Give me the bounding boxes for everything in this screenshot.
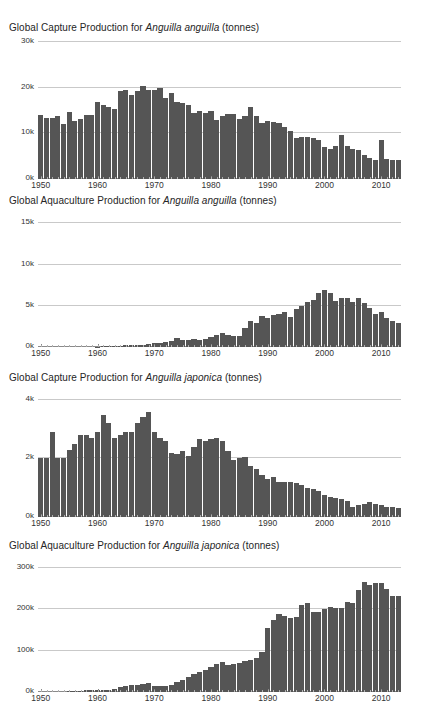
bar (135, 423, 140, 517)
bar (78, 435, 83, 517)
x-axis-minor-tick (268, 177, 269, 179)
bar (140, 86, 145, 179)
bar (208, 439, 213, 517)
bar (311, 300, 316, 347)
x-axis-minor-tick (183, 690, 184, 692)
bar (328, 149, 333, 179)
bar (180, 451, 185, 517)
bar (72, 444, 77, 517)
bar (384, 318, 389, 347)
bar (214, 120, 219, 179)
x-axis-minor-tick (273, 515, 274, 517)
x-axis-minor-tick (381, 345, 382, 347)
x-axis-minor-tick (307, 177, 308, 179)
bar (254, 116, 259, 179)
y-axis-tick-label: 20k (21, 83, 34, 91)
x-axis-minor-tick (347, 690, 348, 692)
x-axis-minor-tick (194, 177, 195, 179)
x-axis-tick-label: 1970 (145, 180, 164, 190)
bar (259, 475, 264, 517)
x-axis-minor-tick (126, 177, 127, 179)
x-axis-minor-tick (115, 177, 116, 179)
x-axis-tick-label: 2010 (372, 518, 391, 528)
x-axis-minor-tick (222, 515, 223, 517)
x-axis-minor-tick (239, 177, 240, 179)
bar (396, 596, 401, 692)
bar (339, 298, 344, 347)
x-axis-minor-tick (200, 177, 201, 179)
bar (220, 662, 225, 692)
x-axis-minor-tick (120, 177, 121, 179)
bar (254, 469, 259, 517)
bar (220, 116, 225, 179)
bar (362, 303, 367, 347)
plot-area-3: 0k2k4k 1950196019701980199020002010 (0, 394, 426, 535)
bar (379, 140, 384, 179)
bar (311, 138, 316, 179)
bar (276, 123, 281, 179)
x-axis-minor-tick (256, 515, 257, 517)
bar (288, 618, 293, 692)
bar (276, 482, 281, 517)
x-axis-minor-tick (166, 515, 167, 517)
x-axis-minor-tick (115, 690, 116, 692)
chart-title-1-species: Anguilla anguilla (146, 22, 220, 33)
x-axis-minor-tick (251, 690, 252, 692)
x-axis-minor-tick (188, 690, 189, 692)
x-axis-minor-tick (290, 690, 291, 692)
x-axis-minor-tick (47, 515, 48, 517)
x-axis-minor-tick (194, 515, 195, 517)
bar (282, 482, 287, 517)
x-axis-minor-tick (75, 690, 76, 692)
bar (345, 298, 350, 347)
x-axis-minor-tick (166, 345, 167, 347)
x-axis-minor-tick (103, 345, 104, 347)
x-axis-minor-tick (262, 690, 263, 692)
x-axis-minor-tick (251, 345, 252, 347)
x-axis-minor-tick (166, 177, 167, 179)
bar (288, 482, 293, 517)
x-axis-minor-tick (69, 345, 70, 347)
x-axis-minor-tick (149, 515, 150, 517)
x-axis-minor-tick (166, 690, 167, 692)
x-axis-minor-tick (387, 177, 388, 179)
bar (350, 149, 355, 179)
bar (379, 312, 384, 347)
x-axis-minor-tick (387, 690, 388, 692)
x-axis-minor-tick (58, 177, 59, 179)
x-axis-minor-tick (154, 345, 155, 347)
chart-panel-aquaculture-anguilla-japonica: Global Aquaculture Production for Anguil… (0, 535, 426, 708)
chart-title-4: Global Aquaculture Production for Anguil… (0, 540, 426, 552)
bar (288, 131, 293, 179)
bar (384, 589, 389, 692)
bar (44, 458, 49, 517)
bar (186, 105, 191, 179)
bar (248, 466, 253, 517)
x-axis-minor-tick (120, 690, 121, 692)
x-axis-tick-label: 1960 (88, 180, 107, 190)
x-axis-minor-tick (279, 177, 280, 179)
bar (282, 127, 287, 179)
x-axis-minor-tick (217, 515, 218, 517)
bar (174, 102, 179, 179)
bar (169, 93, 174, 179)
x-axis-minor-tick (341, 345, 342, 347)
bar (333, 146, 338, 179)
x-axis-minor-tick (302, 345, 303, 347)
plot-area-1: 0k10k20k30k 1950196019701980199020002010 (0, 42, 426, 197)
x-axis-minor-tick (52, 177, 53, 179)
x-axis-minor-tick (98, 345, 99, 347)
x-axis-minor-tick (245, 345, 246, 347)
x-axis-tick-label: 2000 (315, 348, 334, 358)
x-axis-minor-tick (120, 345, 121, 347)
x-axis-minor-tick (228, 345, 229, 347)
chart-title-1: Global Capture Production for Anguilla a… (0, 22, 426, 34)
bar-series-1 (38, 42, 401, 179)
bar (163, 98, 168, 179)
bar (282, 312, 287, 347)
x-axis-minor-tick (137, 177, 138, 179)
x-axis-minor-tick (279, 690, 280, 692)
bar (316, 491, 321, 517)
bar (305, 137, 310, 179)
x-axis-minor-tick (364, 345, 365, 347)
